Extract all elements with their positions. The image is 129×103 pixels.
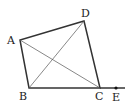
geometry-diagram: A B C D E [0, 0, 129, 103]
label-b: B [19, 90, 27, 103]
diagonal-ac [20, 40, 100, 88]
label-e: E [112, 91, 120, 103]
label-c: C [95, 90, 103, 103]
label-d: D [81, 7, 90, 20]
diagonal-bd [29, 21, 84, 88]
label-a: A [6, 34, 16, 47]
point-e-dot [114, 86, 117, 89]
quadrilateral-abcd [20, 21, 100, 88]
